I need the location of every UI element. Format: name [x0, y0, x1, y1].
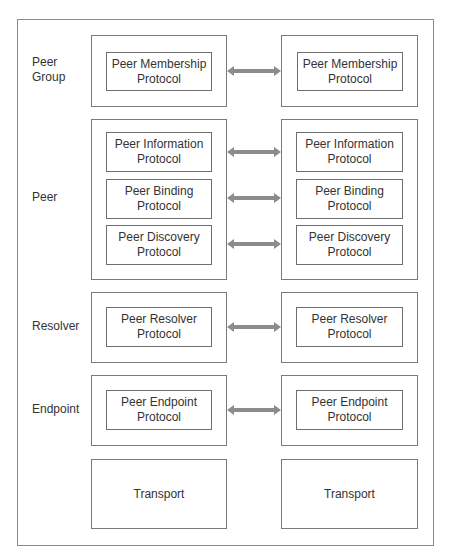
protocol-line2: Protocol — [115, 152, 204, 167]
protocol-line2: Protocol — [121, 410, 197, 425]
right-peer-discovery-protocol: Peer DiscoveryProtocol — [296, 225, 403, 265]
left-peer-resolver-protocol: Peer ResolverProtocol — [106, 307, 212, 347]
protocol-line2: Protocol — [125, 199, 194, 214]
layer-label-line1: Peer — [32, 55, 65, 70]
layer-label-line1: Endpoint — [32, 402, 79, 417]
protocol-line1: Peer Binding — [315, 184, 384, 199]
protocol-line2: Protocol — [309, 245, 390, 260]
double-arrow-icon — [227, 193, 281, 203]
left-transport-box: Transport — [91, 459, 227, 529]
right-peer-membership-protocol: Peer MembershipProtocol — [297, 52, 403, 91]
left-peer-information-protocol: Peer InformationProtocol — [106, 132, 212, 172]
protocol-line2: Protocol — [305, 152, 394, 167]
protocol-line2: Protocol — [112, 72, 207, 87]
protocol-line2: Protocol — [118, 245, 199, 260]
protocol-line2: Protocol — [121, 327, 197, 342]
protocol-line1: Peer Information — [115, 137, 204, 152]
left-peer-binding-protocol: Peer BindingProtocol — [106, 179, 212, 219]
left-peer-endpoint-protocol: Peer EndpointProtocol — [106, 390, 212, 430]
protocol-line2: Protocol — [311, 327, 387, 342]
protocol-line2: Protocol — [303, 72, 398, 87]
protocol-line1: Peer Membership — [112, 57, 207, 72]
protocol-line1: Peer Resolver — [311, 312, 387, 327]
layer-label-line1: Resolver — [32, 319, 79, 334]
left-peer-discovery-protocol: Peer DiscoveryProtocol — [106, 225, 212, 265]
double-arrow-icon — [227, 322, 281, 332]
protocol-line2: Protocol — [315, 199, 384, 214]
double-arrow-icon — [227, 239, 281, 249]
left-peer-membership-protocol: Peer MembershipProtocol — [106, 52, 212, 91]
protocol-line1: Peer Membership — [303, 57, 398, 72]
transport-label: Transport — [134, 487, 185, 501]
layer-label-line2: Group — [32, 70, 65, 85]
right-peer-information-protocol: Peer InformationProtocol — [296, 132, 403, 172]
double-arrow-icon — [227, 66, 281, 76]
layer-label-resolver: Resolver — [32, 319, 79, 334]
right-peer-endpoint-protocol: Peer EndpointProtocol — [296, 390, 403, 430]
protocol-line1: Peer Endpoint — [121, 395, 197, 410]
layer-label-peer-group: Peer Group — [32, 55, 65, 85]
layer-label-peer: Peer — [32, 190, 57, 205]
protocol-line1: Peer Resolver — [121, 312, 197, 327]
protocol-line1: Peer Information — [305, 137, 394, 152]
protocol-line1: Peer Binding — [125, 184, 194, 199]
layer-label-endpoint: Endpoint — [32, 402, 79, 417]
layer-label-line1: Peer — [32, 190, 57, 205]
right-peer-resolver-protocol: Peer ResolverProtocol — [296, 307, 403, 347]
right-transport-box: Transport — [281, 459, 418, 529]
protocol-line1: Peer Discovery — [309, 230, 390, 245]
double-arrow-icon — [227, 405, 281, 415]
protocol-line1: Peer Discovery — [118, 230, 199, 245]
double-arrow-icon — [227, 147, 281, 157]
protocol-line1: Peer Endpoint — [311, 395, 387, 410]
right-peer-binding-protocol: Peer BindingProtocol — [296, 179, 403, 219]
transport-label: Transport — [324, 487, 375, 501]
protocol-line2: Protocol — [311, 410, 387, 425]
